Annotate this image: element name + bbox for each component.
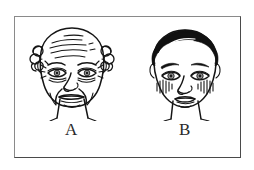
panel-b-label: B bbox=[128, 120, 254, 140]
young-face-illustration bbox=[133, 21, 237, 121]
illustration-frame: A bbox=[14, 16, 241, 158]
figure-root: A bbox=[0, 0, 254, 170]
eye-right bbox=[78, 68, 96, 80]
hair-sweep-left bbox=[152, 49, 155, 66]
forehead-wrinkles bbox=[50, 35, 95, 58]
neck-right-line bbox=[198, 101, 201, 119]
eye-left bbox=[48, 68, 66, 80]
nostril-left bbox=[178, 91, 189, 93]
eyebrow-right bbox=[78, 63, 96, 65]
nostril-left bbox=[64, 88, 75, 90]
eyebrow-right bbox=[191, 63, 209, 67]
nostril-right bbox=[189, 86, 192, 92]
eyebrow-left bbox=[161, 63, 179, 69]
under-eye-bag-left bbox=[49, 80, 66, 82]
panel-a-label: A bbox=[15, 120, 146, 140]
nostril-right bbox=[75, 83, 78, 89]
mouth bbox=[59, 95, 84, 103]
mouth bbox=[175, 97, 195, 104]
elderly-face-illustration bbox=[20, 21, 124, 121]
eye-left bbox=[162, 71, 180, 80]
panel-a: A bbox=[15, 17, 128, 157]
under-eye-bag-right bbox=[78, 80, 95, 82]
neck-left-line bbox=[57, 99, 60, 118]
eyebrow-left bbox=[48, 63, 65, 65]
eye-right bbox=[191, 71, 209, 80]
panel-b: B bbox=[128, 17, 242, 157]
hair-sweep-right bbox=[215, 49, 218, 66]
